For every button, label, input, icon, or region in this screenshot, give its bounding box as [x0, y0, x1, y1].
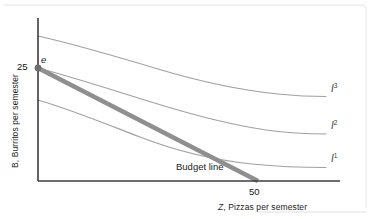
indifference-curve-figure: B, Burritos per semester Z, Pizzas per s… — [0, 0, 369, 219]
chart-canvas — [0, 0, 369, 219]
x-axis-title: Z, Pizzas per semester — [218, 202, 307, 212]
budget-line-label: Budget line — [176, 161, 224, 172]
budget-line — [38, 68, 258, 181]
curve-label-i3: I3 — [331, 83, 337, 94]
indifference-curve-i1 — [38, 100, 326, 168]
curve-label-i2-superscript: 2 — [334, 119, 338, 126]
point-e-marker — [35, 65, 42, 72]
indifference-curve-i2 — [38, 68, 326, 134]
curve-label-i3-superscript: 3 — [334, 82, 338, 89]
indifference-curve-i3 — [38, 36, 326, 97]
point-e-label: e — [41, 54, 46, 65]
curve-label-i1: I1 — [331, 153, 337, 164]
y-tick-label-25: 25 — [17, 61, 28, 72]
x-axis-title-text: , Pizzas per semester — [223, 202, 307, 212]
curve-label-i2: I2 — [331, 120, 337, 131]
x-tick-label-50: 50 — [249, 186, 260, 197]
y-axis-title: B, Burritos per semester — [10, 74, 20, 168]
curve-label-i1-superscript: 1 — [334, 152, 338, 159]
